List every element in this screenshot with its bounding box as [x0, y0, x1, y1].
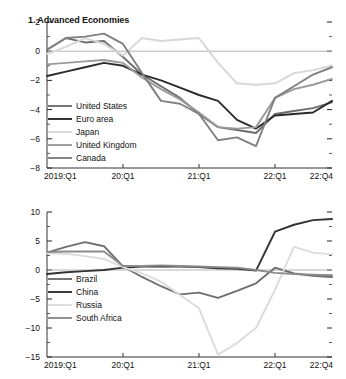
y-axis-tick-label: 5 — [35, 236, 40, 246]
chart-panel-advanced-economies: 1. Advanced Economies 20−2−4−6−82019:Q12… — [0, 0, 346, 189]
y-axis-tick-label: 10 — [31, 207, 41, 217]
legend-label-russia: Russia — [76, 300, 102, 310]
chart-panel-emerging-economies: 2. Emerging Market and Developing Econom… — [0, 189, 346, 379]
x-axis-tick-label: 2019:Q1 — [44, 171, 77, 181]
x-axis-tick-label: 21:Q1 — [187, 171, 210, 181]
axis-frame — [47, 212, 332, 357]
x-axis-tick-label: 20:Q1 — [111, 360, 134, 370]
y-axis-tick-label: 0 — [35, 46, 40, 56]
x-axis-tick-label: 20:Q1 — [111, 171, 134, 181]
y-axis-tick-label: −15 — [26, 352, 41, 362]
y-axis-tick-label: −8 — [30, 163, 40, 173]
legend-label-south-africa: South Africa — [76, 313, 122, 323]
x-axis-tick-label: 2019:Q1 — [44, 360, 77, 370]
chart-plot-emerging-economies: 1050−5−10−152019:Q120:Q121:Q122:Q122:Q4B… — [0, 189, 346, 379]
x-axis-tick-label: 22:Q4 — [310, 360, 333, 370]
x-axis-tick-label: 21:Q1 — [187, 360, 210, 370]
legend-label-china: China — [76, 287, 98, 297]
chart-plot-advanced-economies: 20−2−4−6−82019:Q120:Q121:Q122:Q122:Q4Uni… — [0, 0, 346, 189]
chart-title-advanced-economies: 1. Advanced Economies — [28, 15, 129, 25]
legend-label-united-states: United States — [76, 101, 127, 111]
y-axis-tick-label: 0 — [35, 265, 40, 275]
x-axis-tick-label: 22:Q1 — [263, 171, 286, 181]
legend-label-japan: Japan — [76, 127, 99, 137]
legend-label-canada: Canada — [76, 153, 106, 163]
y-axis-tick-label: −6 — [30, 134, 40, 144]
legend-label-brazil: Brazil — [76, 274, 97, 284]
x-axis-tick-label: 22:Q1 — [263, 360, 286, 370]
y-axis-tick-label: −4 — [30, 105, 40, 115]
y-axis-tick-label: −2 — [30, 75, 40, 85]
y-axis-tick-label: −5 — [30, 294, 40, 304]
y-axis-tick-label: −10 — [26, 323, 41, 333]
x-axis-tick-label: 22:Q4 — [310, 171, 333, 181]
legend-label-euro-area: Euro area — [76, 114, 114, 124]
legend-label-united-kingdom: United Kingdom — [76, 140, 136, 150]
